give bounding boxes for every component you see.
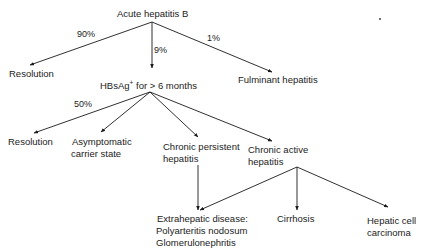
node-cph-line1: Chronic persistent: [163, 141, 240, 152]
node-resolution-2: Resolution: [8, 136, 53, 147]
node-cah-line1: Chronic active: [248, 144, 308, 155]
percent-1: 1%: [207, 33, 220, 43]
arrow-to-cph: [150, 92, 198, 137]
arrow-to-cah: [150, 92, 272, 141]
node-extrahepatic-line2: Polyarteritis nodosum: [156, 225, 247, 236]
node-fulminant-hepatitis: Fulminant hepatitis: [238, 74, 318, 85]
node-extrahepatic-line1: Extrahepatic disease:: [157, 213, 248, 224]
hbsag-suffix: for > 6 months: [133, 80, 197, 91]
arrow-cah-to-hcc: [297, 167, 388, 207]
node-hcc-line2: carcinoma: [367, 227, 411, 238]
arrow-cah-to-extrahepatic: [200, 167, 297, 210]
scan-artifact-dot: [379, 18, 381, 20]
node-cph-line2: hepatitis: [163, 153, 198, 164]
node-hbsag: HBsAg+ for > 6 months: [100, 80, 197, 91]
node-acute-hepatitis-b: Acute hepatitis B: [117, 8, 188, 19]
percent-90: 90%: [77, 29, 95, 39]
node-resolution-1: Resolution: [9, 68, 54, 79]
node-hcc-line1: Hepatic cell: [367, 215, 416, 226]
node-asymptomatic-line1: Asymptomatic: [72, 136, 132, 147]
percent-9: 9%: [154, 45, 167, 55]
arrow-to-asymptomatic: [101, 92, 150, 132]
hbsag-prefix: HBsAg: [100, 80, 130, 91]
node-asymptomatic-line2: carrier state: [71, 148, 121, 159]
percent-50: 50%: [74, 99, 92, 109]
node-cah-line2: hepatitis: [248, 156, 283, 167]
node-extrahepatic-line3: Glomerulonephritis: [156, 237, 236, 248]
node-cirrhosis: Cirrhosis: [277, 213, 314, 224]
arrow-to-fulminant: [152, 22, 272, 72]
